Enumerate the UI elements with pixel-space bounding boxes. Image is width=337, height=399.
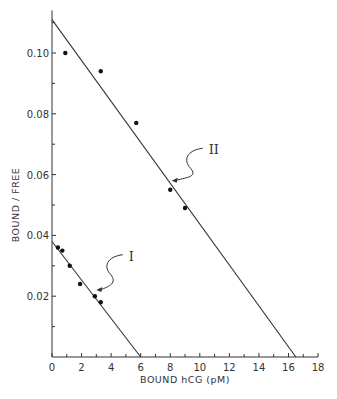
axes: 0246810121416180.020.040.060.080.10 (27, 10, 325, 373)
fit-line-II (52, 20, 296, 357)
y-axis-title: BOUND / FREE (10, 168, 21, 243)
data-point-I (68, 264, 72, 268)
x-tick-label: 4 (108, 362, 114, 373)
annotation-label-I: I (129, 249, 134, 264)
y-tick-label: 0.06 (27, 170, 49, 181)
x-tick-label: 8 (167, 362, 173, 373)
data-point-II (134, 121, 138, 125)
data-point-II (99, 69, 103, 73)
annotation-arrow-I (99, 255, 123, 290)
x-tick-label: 14 (253, 362, 266, 373)
y-tick-label: 0.10 (27, 48, 49, 59)
arrowhead-icon (96, 287, 102, 292)
data-point-I (60, 248, 64, 252)
data-point-I (99, 300, 103, 304)
data-points (56, 51, 188, 305)
data-point-II (63, 51, 67, 55)
x-axis-title: BOUND hCG (pM) (140, 374, 230, 385)
annotations: III (96, 142, 219, 292)
annotation-label-II: II (209, 142, 219, 157)
y-tick-label: 0.04 (27, 230, 49, 241)
annotation-arrow-II (175, 148, 203, 180)
arrowhead-icon (172, 178, 178, 183)
x-tick-label: 10 (193, 362, 206, 373)
x-tick-label: 0 (49, 362, 55, 373)
x-tick-label: 12 (223, 362, 236, 373)
data-point-I (56, 245, 60, 249)
x-tick-label: 2 (78, 362, 84, 373)
fit-lines (52, 20, 296, 357)
data-point-I (93, 294, 97, 298)
data-point-II (168, 188, 172, 192)
y-tick-label: 0.08 (27, 109, 49, 120)
fit-line-I (52, 241, 141, 357)
data-point-II (183, 206, 187, 210)
x-tick-label: 18 (312, 362, 325, 373)
x-tick-label: 16 (282, 362, 295, 373)
data-point-I (78, 282, 82, 286)
x-tick-label: 6 (137, 362, 143, 373)
scatter-chart: 0246810121416180.020.040.060.080.10 III … (0, 0, 337, 399)
y-tick-label: 0.02 (27, 291, 49, 302)
